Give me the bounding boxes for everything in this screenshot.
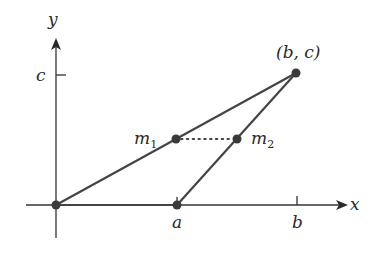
triangle-midpoint-diagram: y x c a b (b, c) m1 m2	[0, 0, 377, 253]
point-a	[173, 201, 182, 210]
point-label-m1: m1	[134, 128, 157, 151]
point-m1	[172, 135, 181, 144]
point-bc	[292, 69, 301, 78]
tick-label-b: b	[292, 212, 303, 232]
point-m2	[233, 135, 242, 144]
y-axis-label: y	[47, 9, 58, 29]
point-origin	[52, 201, 61, 210]
point-label-bc: (b, c)	[276, 42, 320, 62]
tick-label-c: c	[36, 65, 46, 85]
x-axis-label: x	[350, 194, 360, 214]
point-label-m2: m2	[251, 128, 274, 151]
tick-label-a: a	[172, 212, 182, 232]
